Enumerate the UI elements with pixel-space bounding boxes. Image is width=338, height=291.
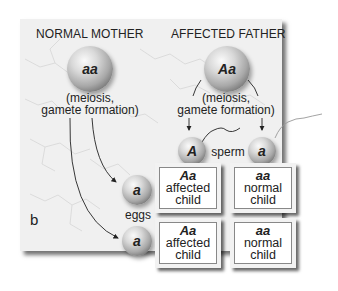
punnett-cell-4: aa normal child xyxy=(230,218,296,268)
sperm-allele-1: A xyxy=(187,143,197,159)
cell-1-line2: child xyxy=(175,194,201,206)
sperm-A-sphere: A xyxy=(178,137,206,165)
cell-2-line2: child xyxy=(250,194,276,206)
eggs-label: eggs xyxy=(118,209,158,221)
egg-2-sphere: a xyxy=(122,226,152,256)
panel-label: b xyxy=(30,214,38,226)
egg-allele-2: a xyxy=(133,233,141,249)
egg-1-sphere: a xyxy=(122,175,152,205)
sperm-a-sphere: a xyxy=(248,137,276,165)
egg-allele-1: a xyxy=(133,182,141,198)
sperm-label: sperm xyxy=(208,146,248,158)
punnett-cell-2: aa normal child xyxy=(230,163,296,213)
sperm-allele-2: a xyxy=(258,143,266,159)
cell-4-line2: child xyxy=(250,249,276,261)
punnett-cell-3: Aa affected child xyxy=(155,218,221,268)
cell-3-line2: child xyxy=(175,249,201,261)
punnett-cell-1: Aa affected child xyxy=(155,163,221,213)
